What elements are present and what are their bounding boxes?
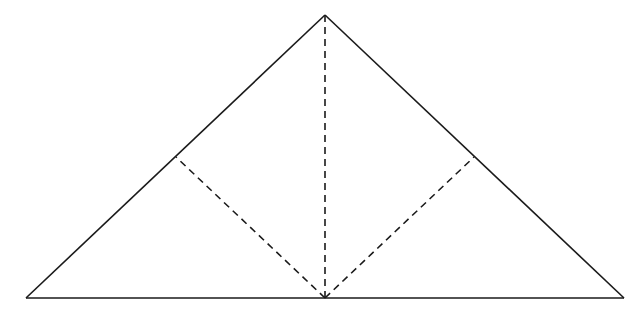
left-perpendicular-dashed-line bbox=[176, 157, 325, 298]
dashed-segments bbox=[176, 15, 474, 298]
right-perpendicular-dashed-line bbox=[325, 157, 474, 298]
diagram-svg bbox=[0, 0, 644, 309]
triangle-diagram bbox=[0, 0, 644, 309]
